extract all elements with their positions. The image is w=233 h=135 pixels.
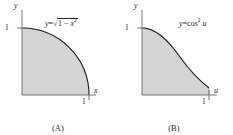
panel-a-x-tick-label: 1 <box>82 97 86 106</box>
panel-b-x-tick-label: 1 <box>202 97 206 106</box>
panel-b-x-axis-label: u <box>214 86 218 95</box>
panel-a-equation: y=√1 − x2 <box>45 18 78 28</box>
panel-a-y-axis-label: y <box>14 1 18 10</box>
figure-container: y x 1 1 y=√1 − x2 (A) y u 1 1 <box>0 0 233 135</box>
panel-a-caption: (A) <box>0 123 116 133</box>
panel-b-shaded-region <box>142 28 209 95</box>
panel-a-eq-radicand-lead: 1 − <box>58 19 71 28</box>
panel-a: y x 1 1 y=√1 − x2 (A) <box>0 0 116 135</box>
panel-b-eq-var: u <box>203 19 207 28</box>
panel-a-eq-radical: √1 − x2 <box>53 18 78 28</box>
panel-a-eq-radicand-exp: 2 <box>74 18 77 24</box>
panel-b-eq-fn: cos <box>187 19 198 28</box>
panel-a-eq-radicand: 1 − x2 <box>57 18 78 28</box>
panel-b-y-tick-label: 1 <box>125 23 129 32</box>
panel-b: y u 1 1 y=cos2 u (B) <box>116 0 232 135</box>
panel-b-equation: y=cos2 u <box>179 19 207 28</box>
panel-b-caption: (B) <box>116 123 232 133</box>
panel-b-plot <box>116 0 232 118</box>
panel-b-eq-exp: 2 <box>198 17 201 23</box>
panel-b-y-axis-label: y <box>134 1 138 10</box>
panel-a-y-tick-label: 1 <box>5 23 9 32</box>
panel-a-x-axis-label: x <box>94 86 98 95</box>
panel-a-shaded-region <box>22 28 89 95</box>
